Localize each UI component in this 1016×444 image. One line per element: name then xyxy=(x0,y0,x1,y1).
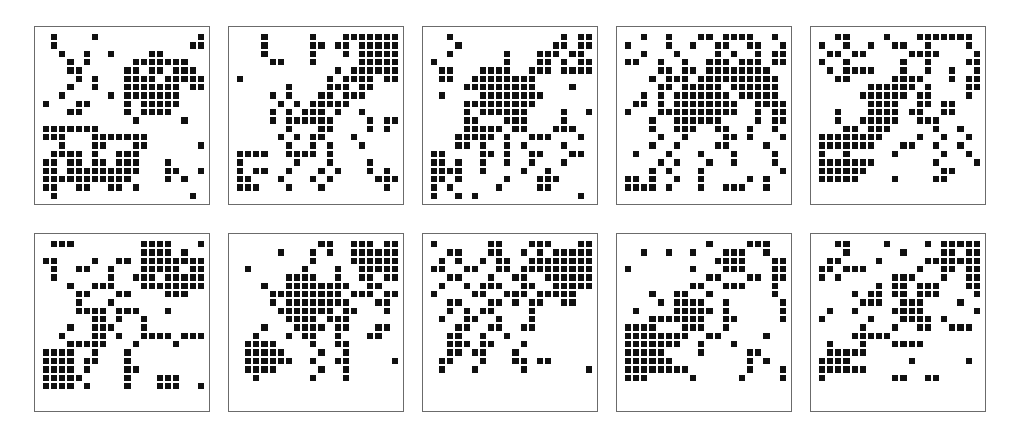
lattice-cell-empty xyxy=(471,357,479,365)
lattice-cell-empty xyxy=(430,116,438,124)
lattice-cell-empty xyxy=(875,33,883,41)
lattice-cell-empty xyxy=(66,265,74,273)
lattice-cell-filled xyxy=(657,365,665,373)
lattice-cell-empty xyxy=(383,382,391,390)
lattice-cell-empty xyxy=(463,257,471,265)
lattice-cell-empty xyxy=(91,298,99,306)
lattice-cell-filled xyxy=(123,150,131,158)
lattice-cell-filled xyxy=(842,167,850,175)
lattice-cell-filled xyxy=(285,125,293,133)
lattice-cell-filled xyxy=(899,41,907,49)
lattice-cell-empty xyxy=(438,348,446,356)
panel-8-lattice xyxy=(430,240,593,407)
lattice-cell-empty xyxy=(383,282,391,290)
lattice-cell-filled xyxy=(657,100,665,108)
lattice-cell-empty xyxy=(495,332,503,340)
lattice-cell-filled xyxy=(75,150,83,158)
lattice-cell-empty xyxy=(536,192,544,200)
lattice-cell-filled xyxy=(851,175,859,183)
lattice-cell-empty xyxy=(479,58,487,66)
lattice-cell-empty xyxy=(236,257,244,265)
lattice-cell-empty xyxy=(471,323,479,331)
lattice-cell-empty xyxy=(536,167,544,175)
lattice-cell-filled xyxy=(948,108,956,116)
lattice-cell-filled xyxy=(99,307,107,315)
lattice-cell-empty xyxy=(859,183,867,191)
lattice-cell-empty xyxy=(665,390,673,398)
lattice-cell-empty xyxy=(932,150,940,158)
lattice-cell-filled xyxy=(665,150,673,158)
lattice-cell-empty xyxy=(585,357,593,365)
lattice-cell-empty xyxy=(640,141,648,149)
lattice-cell-empty xyxy=(632,257,640,265)
lattice-cell-empty xyxy=(648,58,656,66)
lattice-cell-filled xyxy=(973,50,981,58)
lattice-cell-empty xyxy=(172,315,180,323)
lattice-cell-empty xyxy=(99,348,107,356)
lattice-cell-empty xyxy=(479,240,487,248)
lattice-cell-filled xyxy=(277,290,285,298)
lattice-cell-filled xyxy=(358,50,366,58)
lattice-cell-empty xyxy=(826,58,834,66)
lattice-cell-empty xyxy=(334,75,342,83)
lattice-cell-empty xyxy=(842,282,850,290)
lattice-cell-filled xyxy=(317,290,325,298)
lattice-cell-empty xyxy=(358,399,366,407)
lattice-cell-filled xyxy=(326,100,334,108)
lattice-cell-empty xyxy=(762,192,770,200)
lattice-cell-empty xyxy=(738,315,746,323)
lattice-cell-filled xyxy=(430,290,438,298)
lattice-cell-empty xyxy=(430,315,438,323)
lattice-cell-empty xyxy=(479,248,487,256)
lattice-cell-empty xyxy=(479,41,487,49)
lattice-cell-empty xyxy=(285,240,293,248)
lattice-cell-filled xyxy=(140,248,148,256)
lattice-cell-empty xyxy=(471,33,479,41)
lattice-cell-filled xyxy=(132,183,140,191)
lattice-cell-empty xyxy=(50,290,58,298)
lattice-cell-empty xyxy=(107,290,115,298)
lattice-cell-filled xyxy=(503,116,511,124)
lattice-cell-empty xyxy=(391,158,399,166)
lattice-cell-filled xyxy=(479,100,487,108)
lattice-cell-filled xyxy=(132,273,140,281)
lattice-cell-empty xyxy=(91,100,99,108)
panel-1-lattice xyxy=(42,33,205,200)
lattice-cell-empty xyxy=(560,150,568,158)
lattice-cell-empty xyxy=(277,382,285,390)
lattice-cell-empty xyxy=(818,91,826,99)
lattice-cell-filled xyxy=(326,83,334,91)
lattice-cell-empty xyxy=(495,290,503,298)
lattice-cell-filled xyxy=(58,91,66,99)
lattice-cell-filled xyxy=(374,41,382,49)
lattice-cell-empty xyxy=(528,399,536,407)
lattice-cell-empty xyxy=(705,374,713,382)
lattice-cell-empty xyxy=(965,141,973,149)
lattice-cell-empty xyxy=(487,265,495,273)
lattice-cell-filled xyxy=(350,248,358,256)
lattice-cell-empty xyxy=(826,192,834,200)
lattice-cell-empty xyxy=(132,390,140,398)
lattice-cell-empty xyxy=(244,240,252,248)
lattice-cell-empty xyxy=(244,158,252,166)
lattice-cell-empty xyxy=(908,323,916,331)
lattice-cell-empty xyxy=(746,248,754,256)
lattice-cell-empty xyxy=(665,175,673,183)
lattice-cell-empty xyxy=(374,116,382,124)
lattice-cell-filled xyxy=(326,150,334,158)
lattice-cell-empty xyxy=(560,365,568,373)
lattice-cell-filled xyxy=(260,323,268,331)
lattice-cell-empty xyxy=(107,348,115,356)
lattice-cell-filled xyxy=(673,307,681,315)
lattice-cell-filled xyxy=(83,175,91,183)
lattice-cell-empty xyxy=(269,240,277,248)
lattice-cell-filled xyxy=(867,298,875,306)
lattice-cell-filled xyxy=(965,83,973,91)
lattice-cell-filled xyxy=(42,348,50,356)
lattice-cell-empty xyxy=(503,298,511,306)
lattice-cell-empty xyxy=(156,357,164,365)
lattice-cell-filled xyxy=(91,75,99,83)
lattice-cell-filled xyxy=(463,340,471,348)
lattice-cell-empty xyxy=(244,100,252,108)
lattice-cell-empty xyxy=(471,183,479,191)
